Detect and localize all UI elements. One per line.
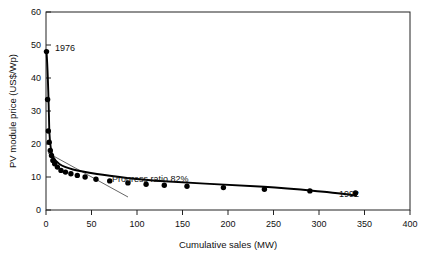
x-axis-ticks	[46, 210, 410, 215]
y-tick-50: 50	[31, 40, 41, 50]
data-point	[262, 187, 267, 192]
y-tick-0: 0	[36, 205, 41, 215]
y-axis-tick-labels: 0 10 20 30 40 50 60	[31, 7, 41, 215]
x-tick-100: 100	[129, 219, 144, 229]
x-tick-300: 300	[311, 219, 326, 229]
x-tick-250: 250	[266, 219, 281, 229]
data-point	[184, 184, 189, 189]
pv-module-price-chart: 0 10 20 30 40 50 60 0 50 100 150 200 25	[0, 0, 426, 262]
data-point	[82, 174, 87, 179]
annotation-progress-ratio: Progress ratio 82%	[112, 174, 189, 184]
data-point	[75, 173, 80, 178]
data-point	[68, 171, 73, 176]
plot-area-frame	[46, 12, 410, 210]
x-axis-tick-labels: 0 50 100 150 200 250 300 350 400	[43, 219, 417, 229]
annotation-1976: 1976	[55, 43, 75, 53]
y-tick-40: 40	[31, 73, 41, 83]
y-tick-10: 10	[31, 172, 41, 182]
data-point	[47, 140, 52, 145]
x-tick-50: 50	[86, 219, 96, 229]
x-axis-title: Cumulative sales (MW)	[179, 239, 277, 250]
x-tick-0: 0	[43, 219, 48, 229]
data-point	[221, 185, 226, 190]
x-tick-400: 400	[402, 219, 417, 229]
x-tick-200: 200	[220, 219, 235, 229]
y-tick-60: 60	[31, 7, 41, 17]
data-point	[46, 128, 51, 133]
data-point	[93, 177, 98, 182]
y-tick-30: 30	[31, 106, 41, 116]
data-point	[48, 148, 53, 153]
annotation-1992: 1992	[339, 189, 359, 199]
y-tick-20: 20	[31, 139, 41, 149]
data-point	[45, 97, 50, 102]
data-point	[63, 169, 68, 174]
data-point	[307, 188, 312, 193]
chart-svg: 0 10 20 30 40 50 60 0 50 100 150 200 25	[0, 0, 426, 262]
y-axis-title: PV module price (US$/Wp)	[7, 54, 18, 168]
x-tick-150: 150	[175, 219, 190, 229]
data-point	[44, 49, 49, 54]
x-tick-350: 350	[357, 219, 372, 229]
data-point	[49, 153, 54, 158]
